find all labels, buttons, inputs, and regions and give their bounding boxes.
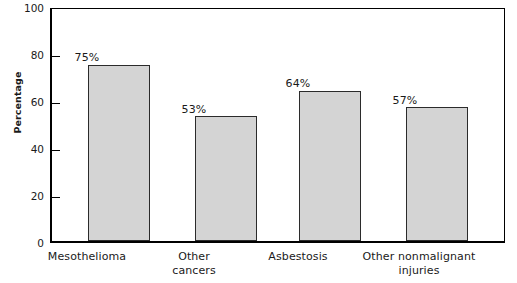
x-label-other-nonmalignant: Other nonmalignant injuries	[348, 250, 490, 277]
y-tick-label-100: 100	[8, 3, 44, 14]
bar-mesothelioma[interactable]	[88, 65, 150, 241]
bar-value-asbestosis: 64%	[267, 77, 329, 90]
y-tick-label-20: 20	[8, 191, 44, 202]
y-tick-label-80: 80	[8, 50, 44, 61]
x-label-other-cancers: Other cancers	[155, 250, 233, 277]
bar-asbestosis[interactable]	[299, 91, 361, 241]
y-tick-label-60: 60	[8, 97, 44, 108]
y-tick-mark-20	[52, 197, 60, 198]
bar-value-other-cancers: 53%	[163, 103, 225, 116]
plot-area	[50, 8, 505, 243]
bar-value-other-nonmalignant: 57%	[374, 94, 436, 107]
bar-chart: Percentage 100 80 60 40 20 0 75% 53% 64%…	[0, 0, 517, 283]
y-tick-label-40: 40	[8, 144, 44, 155]
bar-other-nonmalignant[interactable]	[406, 107, 468, 241]
x-label-asbestosis: Asbestosis	[256, 250, 340, 264]
x-label-mesothelioma: Mesothelioma	[40, 250, 134, 264]
bar-other-cancers[interactable]	[195, 116, 257, 241]
y-tick-mark-60	[52, 103, 60, 104]
y-tick-label-0: 0	[8, 238, 44, 249]
y-tick-mark-40	[52, 150, 60, 151]
bar-value-mesothelioma: 75%	[56, 51, 118, 64]
